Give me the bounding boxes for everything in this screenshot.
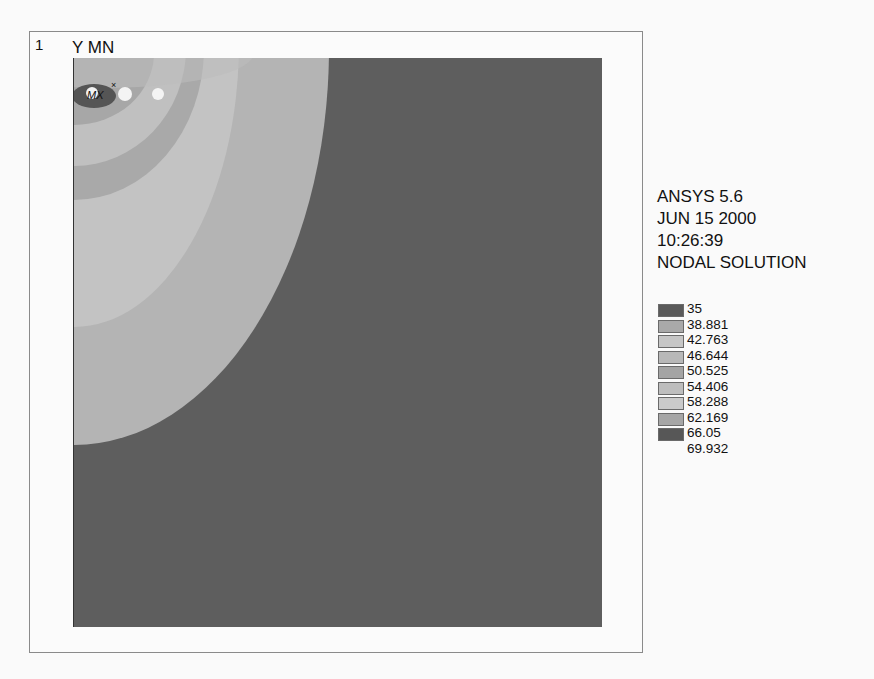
legend-value: 42.763 [687, 332, 728, 347]
contour-plot-area: MX × [73, 58, 602, 627]
legend-value: 35 [687, 301, 702, 316]
legend-value: 38.881 [687, 317, 728, 332]
legend-swatch [658, 428, 684, 441]
product-version: ANSYS 5.6 [657, 186, 807, 208]
axis-label: Y MN [72, 38, 114, 58]
time: 10:26:39 [657, 230, 807, 252]
legend-value: 69.932 [687, 441, 728, 456]
legend-value: 54.406 [687, 379, 728, 394]
legend-value: 62.169 [687, 410, 728, 425]
legend-value: 66.05 [687, 425, 721, 440]
legend-swatch [658, 320, 684, 333]
legend-swatch [658, 382, 684, 395]
legend-swatch [658, 304, 684, 317]
legend-swatch [658, 397, 684, 410]
info-panel: ANSYS 5.6 JUN 15 2000 10:26:39 NODAL SOL… [657, 186, 807, 274]
window-number: 1 [35, 36, 43, 53]
svg-text:×: × [111, 80, 116, 90]
solution-type: NODAL SOLUTION [657, 252, 807, 274]
legend-value: 58.288 [687, 394, 728, 409]
legend-swatch [658, 335, 684, 348]
legend-value: 50.525 [687, 363, 728, 378]
legend-value: 46.644 [687, 348, 728, 363]
legend-swatch [658, 351, 684, 364]
contour-bands: MX × [74, 58, 602, 627]
legend-swatch [658, 366, 684, 379]
svg-text:MX: MX [87, 89, 104, 101]
date: JUN 15 2000 [657, 208, 807, 230]
legend-swatch [658, 413, 684, 426]
